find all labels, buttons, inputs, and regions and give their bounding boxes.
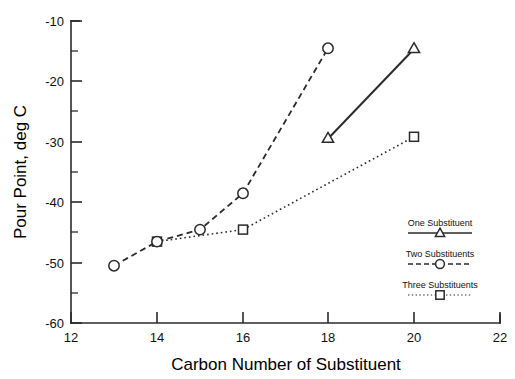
x-tick-label: 20 [407, 330, 421, 345]
y-tick-label: -60 [45, 316, 64, 331]
data-point-marker-circle [152, 236, 162, 246]
chart-background [0, 0, 515, 379]
x-tick-label: 16 [236, 330, 250, 345]
x-axis-title: Carbon Number of Substituent [171, 355, 401, 374]
legend-item-one-substituent[interactable]: One Substituent [408, 218, 473, 236]
legend-label-one-substituent: One Substituent [408, 218, 473, 228]
y-tick-label: -50 [45, 256, 64, 271]
x-tick-label: 18 [321, 330, 335, 345]
data-point-marker-square [410, 132, 419, 141]
data-point-marker-circle [323, 43, 333, 53]
y-axis-title: Pour Point, deg C [11, 105, 30, 239]
y-tick-label: -40 [45, 195, 64, 210]
legend-marker-circle [436, 260, 445, 269]
chart-figure: -10 -20 -30 -40 -50 -60 12 14 16 18 20 2… [0, 0, 515, 379]
y-tick-label: -20 [45, 74, 64, 89]
x-tick-label: 14 [150, 330, 164, 345]
legend-label-two-substituents: Two Substituents [406, 249, 475, 259]
x-tick-label: 12 [64, 330, 78, 345]
legend-marker-square [436, 291, 444, 299]
pour-point-line-chart: -10 -20 -30 -40 -50 -60 12 14 16 18 20 2… [0, 0, 515, 379]
data-point-marker-circle [109, 261, 119, 271]
data-point-marker-circle [195, 224, 205, 234]
data-point-marker-square [239, 225, 248, 234]
x-tick-label: 22 [493, 330, 507, 345]
data-point-marker-circle [238, 188, 248, 198]
y-tick-label: -10 [45, 14, 64, 29]
y-tick-label: -30 [45, 135, 64, 150]
legend-label-three-substituents: Three Substituents [402, 280, 478, 290]
